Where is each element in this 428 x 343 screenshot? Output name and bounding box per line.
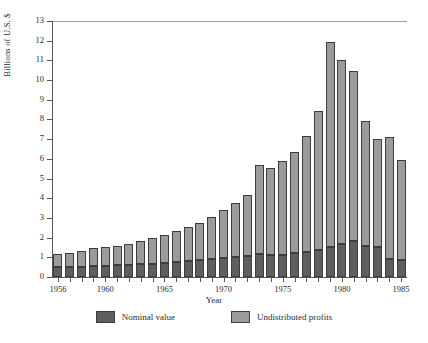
x-axis-tick bbox=[401, 277, 402, 282]
x-axis-tick-label: 1975 bbox=[274, 284, 291, 294]
legend-item: Nominal value bbox=[96, 311, 175, 323]
bar bbox=[101, 21, 110, 277]
bar bbox=[326, 21, 335, 277]
y-axis-tick-label: 2 bbox=[40, 232, 44, 243]
y-axis-tick: 6 bbox=[47, 159, 52, 160]
bar bbox=[266, 21, 275, 277]
bar-segment bbox=[397, 260, 406, 277]
bar bbox=[397, 21, 406, 277]
bar-segment bbox=[243, 195, 252, 256]
bar bbox=[89, 21, 98, 277]
bar bbox=[136, 21, 145, 277]
bar-segment bbox=[302, 136, 311, 252]
y-axis-tick-label: 0 bbox=[40, 271, 44, 282]
bar-segment bbox=[219, 258, 228, 277]
x-axis-tick-label: 1956 bbox=[49, 284, 66, 294]
x-axis-tick bbox=[224, 277, 225, 282]
bar bbox=[349, 21, 358, 277]
y-axis-tick: 4 bbox=[47, 198, 52, 199]
x-axis-tick bbox=[176, 277, 177, 282]
bar bbox=[172, 21, 181, 277]
bar-segment bbox=[337, 60, 346, 243]
bar bbox=[255, 21, 264, 277]
x-axis-tick bbox=[318, 277, 319, 282]
bar-segment bbox=[290, 152, 299, 253]
y-axis-tick-label: 7 bbox=[40, 133, 44, 144]
bar bbox=[373, 21, 382, 277]
x-axis-tick bbox=[342, 277, 343, 282]
x-axis-tick bbox=[93, 277, 94, 282]
x-axis-tick-label: 1985 bbox=[393, 284, 410, 294]
x-axis-tick bbox=[259, 277, 260, 282]
y-axis-tick: 11 bbox=[47, 60, 52, 61]
bar-segment bbox=[290, 253, 299, 277]
x-axis-tick bbox=[354, 277, 355, 282]
legend-item: Undistributed profits bbox=[231, 311, 332, 323]
bar-segment bbox=[361, 246, 370, 277]
bar-segment bbox=[77, 251, 86, 267]
chart-legend: Nominal valueUndistributed profits bbox=[0, 311, 428, 323]
bar bbox=[314, 21, 323, 277]
x-axis-tick bbox=[235, 277, 236, 282]
y-axis-tick-label: 4 bbox=[40, 192, 44, 203]
chart-figure: Billions of U.S. $ 012345678910111213 19… bbox=[0, 0, 428, 343]
bar-segment bbox=[337, 244, 346, 277]
bar bbox=[195, 21, 204, 277]
x-axis-tick bbox=[164, 277, 165, 282]
bar-segment bbox=[89, 266, 98, 277]
bar bbox=[184, 21, 193, 277]
bar-segment bbox=[77, 267, 86, 277]
y-axis-tick: 3 bbox=[47, 218, 52, 219]
bar bbox=[113, 21, 122, 277]
bar-segment bbox=[136, 241, 145, 265]
x-axis-tick bbox=[283, 277, 284, 282]
bar-segment bbox=[302, 252, 311, 277]
bar-segment bbox=[207, 217, 216, 259]
x-axis-tick bbox=[271, 277, 272, 282]
bar-segment bbox=[124, 244, 133, 266]
bar-segment bbox=[231, 257, 240, 277]
y-axis-tick: 13 bbox=[47, 21, 52, 22]
bar-segment bbox=[349, 241, 358, 277]
y-axis-tick: 12 bbox=[47, 41, 52, 42]
bar-segment bbox=[349, 71, 358, 240]
bar bbox=[278, 21, 287, 277]
x-axis-tick bbox=[117, 277, 118, 282]
bar-segment bbox=[195, 260, 204, 277]
x-axis-tick bbox=[105, 277, 106, 282]
bar-segment bbox=[255, 254, 264, 277]
bar-segment bbox=[219, 210, 228, 258]
bar-segment bbox=[172, 231, 181, 263]
bar-segment bbox=[373, 247, 382, 277]
x-axis-tick bbox=[70, 277, 71, 282]
x-axis-title: Year bbox=[0, 295, 428, 305]
bar-segment bbox=[136, 264, 145, 277]
x-axis-tick-label: 1980 bbox=[333, 284, 350, 294]
bar-segment bbox=[113, 246, 122, 266]
bar-segment bbox=[278, 255, 287, 277]
bar-segment bbox=[195, 223, 204, 260]
bar-segment bbox=[89, 248, 98, 266]
x-axis-tick bbox=[200, 277, 201, 282]
legend-label: Nominal value bbox=[122, 312, 175, 322]
bar bbox=[207, 21, 216, 277]
bar-segment bbox=[172, 262, 181, 277]
bar bbox=[337, 21, 346, 277]
bar-segment bbox=[184, 227, 193, 261]
y-axis-tick: 7 bbox=[47, 139, 52, 140]
bar-segment bbox=[148, 238, 157, 265]
bar-segment bbox=[255, 165, 264, 255]
bar-segment bbox=[148, 264, 157, 277]
x-axis-tick bbox=[58, 277, 59, 282]
y-axis-tick: 9 bbox=[47, 100, 52, 101]
bar bbox=[53, 21, 62, 277]
x-axis-tick bbox=[389, 277, 390, 282]
y-axis-tick-label: 9 bbox=[40, 94, 44, 105]
bar bbox=[361, 21, 370, 277]
y-axis-tick: 5 bbox=[47, 179, 52, 180]
bar bbox=[385, 21, 394, 277]
bar-segment bbox=[314, 111, 323, 251]
bar-segment bbox=[207, 259, 216, 277]
bar-segment bbox=[397, 160, 406, 260]
bar bbox=[77, 21, 86, 277]
